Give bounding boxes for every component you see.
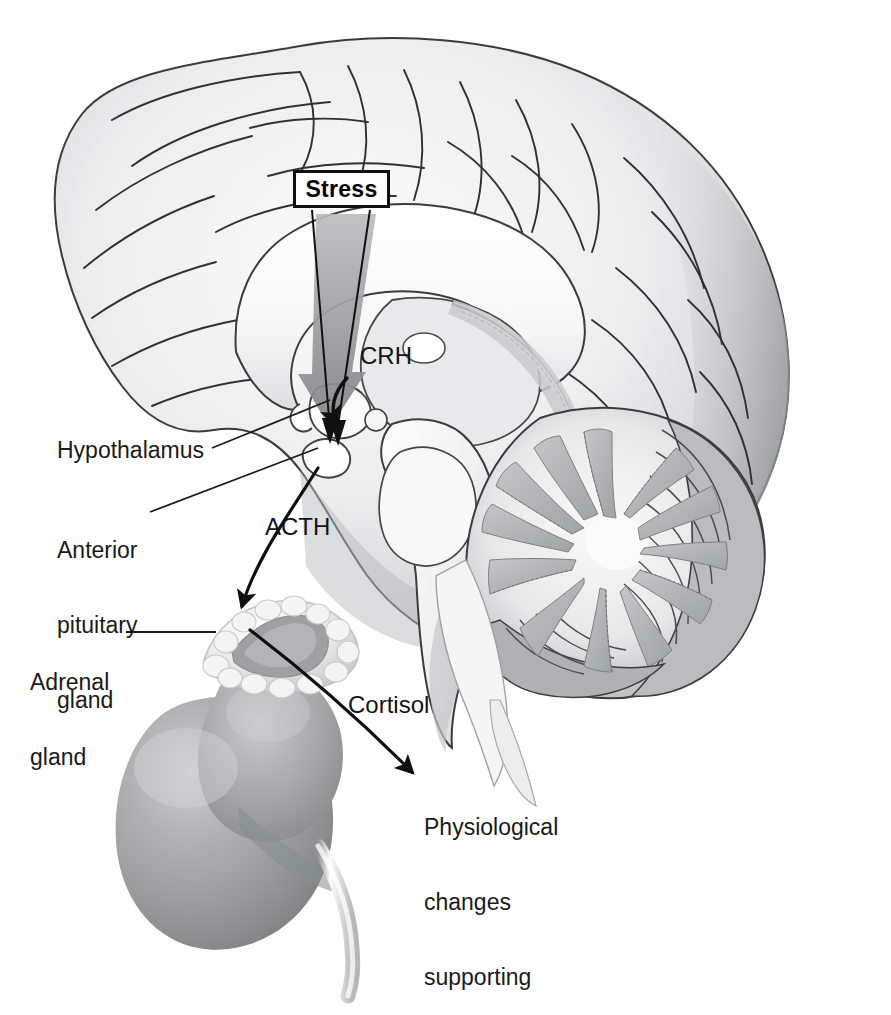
- adrenal-gland-label: Adrenal gland: [30, 620, 109, 820]
- acth-label: ACTH: [265, 513, 330, 541]
- physiological-changes-label: Physiological changes supporting fight-o…: [424, 765, 558, 1015]
- kidney-and-adrenal: [116, 596, 359, 996]
- adrenal-gland-line-2: gland: [30, 745, 109, 770]
- stress-label-box: Stress: [293, 170, 390, 208]
- physiological-line-2: changes: [424, 890, 558, 915]
- adrenal-gland-line-1: Adrenal: [30, 670, 109, 695]
- physiological-line-3: supporting: [424, 965, 558, 990]
- cerebellum: [466, 408, 764, 698]
- stress-label: Stress: [305, 176, 377, 203]
- hypothalamus-label: Hypothalamus: [57, 438, 204, 463]
- cortisol-label: Cortisol: [348, 691, 429, 719]
- anterior-pituitary-line-1: Anterior: [57, 538, 138, 563]
- diagram-canvas: Stress CRH ACTH Cortisol Hypothalamus An…: [0, 0, 891, 1015]
- physiological-line-1: Physiological: [424, 815, 558, 840]
- crh-label: CRH: [360, 342, 412, 370]
